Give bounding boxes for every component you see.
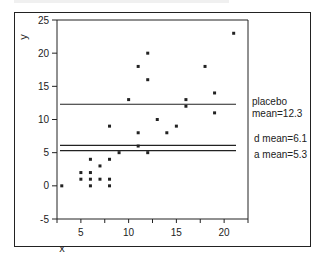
data-point: [232, 32, 235, 35]
data-point: [146, 78, 149, 81]
data-point: [108, 125, 111, 128]
data-point: [89, 158, 92, 161]
data-point: [79, 178, 82, 181]
data-point: [165, 131, 168, 134]
x-tick-label: 15: [171, 227, 183, 238]
y-tick-label: 5: [43, 147, 49, 158]
y-tick-label: 10: [38, 114, 50, 125]
data-point: [89, 171, 92, 174]
data-point: [146, 52, 149, 55]
data-point: [204, 65, 207, 68]
data-point: [118, 151, 121, 154]
data-point: [89, 178, 92, 181]
x-tick-label: 5: [78, 227, 84, 238]
data-point: [89, 184, 92, 187]
data-point: [156, 118, 159, 121]
data-point: [137, 131, 140, 134]
data-point: [108, 184, 111, 187]
placebo-mean-label: placebo mean=12.3: [252, 96, 302, 120]
data-point: [184, 105, 187, 108]
y-axis-title: y: [17, 34, 29, 40]
y-tick-label: 25: [38, 15, 50, 26]
data-point: [108, 178, 111, 181]
data-point: [108, 158, 111, 161]
data-point: [79, 171, 82, 174]
y-tick-label: -5: [40, 214, 49, 225]
d-mean-label: d mean=6.1: [254, 133, 307, 145]
data-point: [213, 91, 216, 94]
a-mean-label: a mean=5.3: [254, 149, 307, 161]
y-tick-label: 15: [38, 81, 50, 92]
data-point: [175, 125, 178, 128]
data-point: [98, 178, 101, 181]
x-axis-title: x: [59, 242, 65, 254]
data-point: [213, 111, 216, 114]
y-tick-label: 0: [43, 180, 49, 191]
x-tick-label: 20: [219, 227, 231, 238]
data-point: [184, 98, 187, 101]
y-tick-label: 20: [38, 48, 50, 59]
data-point: [98, 164, 101, 167]
data-point: [60, 184, 63, 187]
x-tick-label: 10: [123, 227, 135, 238]
data-point: [137, 65, 140, 68]
data-point: [137, 145, 140, 148]
data-point: [127, 98, 130, 101]
data-point: [146, 151, 149, 154]
